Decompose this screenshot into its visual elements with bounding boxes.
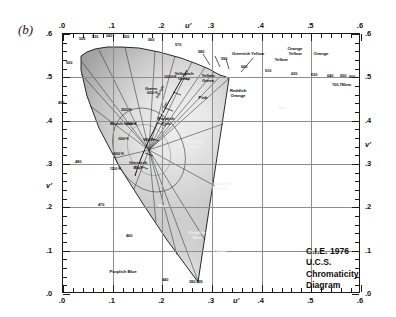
x-axis-tick-top bbox=[192, 34, 193, 38]
x-axis-tick-top bbox=[103, 34, 104, 38]
x-axis-tick-bottom bbox=[172, 288, 173, 292]
x-axis-tick-top bbox=[172, 34, 173, 38]
y-axis-tick-right bbox=[352, 34, 359, 35]
y-axis-tick-left bbox=[63, 173, 67, 174]
x-axis-tick-bottom bbox=[282, 288, 283, 292]
x-axis-tick-bottom bbox=[242, 288, 243, 292]
wavelength-label-380-420: 380-420 bbox=[189, 279, 203, 284]
color-temp-label-2000k: 2000°K bbox=[113, 152, 124, 156]
y-axis-tick-left bbox=[63, 34, 70, 35]
y-axis-tick-left bbox=[63, 164, 70, 165]
x-axis-tick-bottom bbox=[272, 288, 273, 292]
y-axis-title-right: v' bbox=[365, 140, 371, 149]
wavelength-label-470: 470 bbox=[98, 202, 104, 207]
x-axis-tick-bottom bbox=[361, 285, 362, 292]
wavelength-label-650: 650 bbox=[340, 73, 346, 78]
wavelength-label-590: 590 bbox=[221, 56, 227, 61]
y-tick-1: .1 bbox=[46, 245, 52, 254]
x-axis-tick-bottom bbox=[321, 288, 322, 292]
x-axis-tick-bottom bbox=[123, 288, 124, 292]
y-tick-right-2: .2 bbox=[365, 202, 371, 211]
color-temp-label-2500k: 2500°K bbox=[121, 108, 132, 112]
x-axis-tick-top bbox=[291, 34, 292, 38]
x-axis-tick-top bbox=[321, 34, 322, 38]
y-axis-tick-left bbox=[63, 251, 70, 252]
y-axis-tick-left bbox=[63, 86, 67, 87]
y-axis-tick-right bbox=[355, 268, 359, 269]
y-axis-tick-right bbox=[355, 95, 359, 96]
x-axis-tick-top bbox=[83, 34, 84, 38]
y-tick-right-4: .4 bbox=[365, 115, 371, 124]
y-axis-title-left: v' bbox=[46, 181, 52, 190]
x-tick-top-2: .2 bbox=[158, 21, 164, 30]
wavelength-label-630: 630 bbox=[311, 72, 317, 77]
y-axis-tick-left bbox=[63, 216, 67, 217]
y-tick-4: .4 bbox=[46, 115, 52, 124]
y-axis-tick-left bbox=[63, 259, 67, 260]
y-tick-right-5: .5 bbox=[365, 72, 371, 81]
region-label-red: Red bbox=[271, 106, 293, 111]
region-label-orange-yellow: Orange Yellow bbox=[281, 47, 309, 57]
y-axis-tick-left bbox=[63, 155, 67, 156]
region-label-greenish-yellow: Greenish Yellow bbox=[223, 52, 273, 57]
region-label-greenish-blue: Greenish Blue bbox=[122, 161, 154, 171]
x-axis-tick-bottom bbox=[252, 288, 253, 292]
y-axis-tick-right bbox=[355, 51, 359, 52]
y-axis-tick-right bbox=[355, 242, 359, 243]
y-axis-tick-left bbox=[63, 225, 67, 226]
x-axis-tick-top bbox=[93, 34, 94, 38]
x-axis-tick-bottom bbox=[202, 288, 203, 292]
x-tick-top-4: .4 bbox=[258, 21, 264, 30]
y-axis-tick-left bbox=[63, 268, 67, 269]
y-axis-tick-right bbox=[355, 225, 359, 226]
y-axis-tick-right bbox=[355, 277, 359, 278]
y-tick-right-3: .3 bbox=[365, 159, 371, 168]
gridline-v-0.3 bbox=[63, 164, 359, 165]
region-label-orange: Orange bbox=[308, 52, 334, 57]
x-tick-4: .4 bbox=[258, 296, 264, 305]
x-axis-tick-bottom bbox=[103, 288, 104, 292]
y-axis-tick-right bbox=[355, 129, 359, 130]
y-axis-tick-left bbox=[63, 51, 67, 52]
y-axis-tick-right bbox=[355, 86, 359, 87]
x-axis-title-top: u' bbox=[185, 21, 191, 30]
wavelength-label-600: 600 bbox=[241, 64, 247, 69]
region-label-reddish-orange: Reddish Orange bbox=[223, 89, 253, 99]
x-axis-tick-top bbox=[73, 34, 74, 38]
y-axis-tick-right bbox=[355, 181, 359, 182]
figure-root: (b) bbox=[0, 0, 396, 317]
wavelength-label-440: 440 bbox=[162, 277, 168, 282]
x-tick-5: .5 bbox=[307, 296, 313, 305]
x-axis-tick-bottom bbox=[311, 285, 312, 292]
y-axis-tick-right bbox=[355, 138, 359, 139]
x-axis-tick-bottom bbox=[83, 288, 84, 292]
y-axis-tick-left bbox=[63, 103, 67, 104]
region-label-purplish-blue: Purplish Blue bbox=[182, 231, 212, 241]
x-axis-tick-bottom bbox=[331, 288, 332, 292]
y-axis-tick-right bbox=[355, 155, 359, 156]
y-axis-tick-right bbox=[355, 233, 359, 234]
y-axis-tick-left bbox=[63, 233, 67, 234]
x-axis-tick-bottom bbox=[182, 288, 183, 292]
x-tick-1: .1 bbox=[109, 296, 115, 305]
x-axis-tick-top bbox=[63, 34, 64, 41]
y-axis-tick-left bbox=[63, 277, 67, 278]
region-label-white: White bbox=[136, 138, 162, 143]
y-tick-right-0: .0 bbox=[365, 289, 371, 298]
wavelength-label-460: 460 bbox=[126, 233, 132, 238]
x-tick-2: .2 bbox=[158, 296, 164, 305]
region-label-purplish-red: Purplish Red bbox=[179, 140, 209, 150]
x-axis-tick-top bbox=[133, 34, 134, 38]
y-axis-tick-right bbox=[355, 103, 359, 104]
x-axis-tick-top bbox=[311, 34, 312, 41]
x-axis-tick-bottom bbox=[192, 288, 193, 292]
y-tick-5: .5 bbox=[46, 72, 52, 81]
y-axis-tick-left bbox=[63, 43, 67, 44]
color-temp-label-3000k: 3000°K bbox=[118, 137, 129, 141]
x-axis-tick-top bbox=[182, 34, 183, 38]
title-line-2: Chromaticity bbox=[306, 269, 359, 280]
y-axis-tick-right bbox=[352, 164, 359, 165]
chromaticity-plot-frame: Green Yellowish Green Yellow Green Green… bbox=[62, 33, 360, 293]
x-axis-tick-bottom bbox=[113, 285, 114, 292]
color-temp-label-4000k: 4000°K bbox=[126, 122, 137, 126]
